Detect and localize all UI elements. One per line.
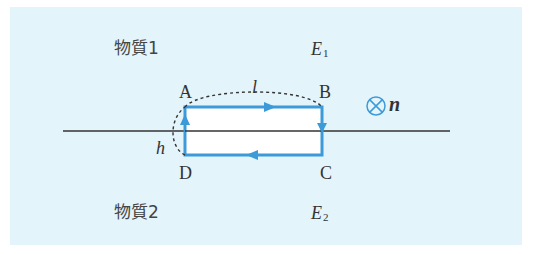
normal-n-label: n bbox=[389, 94, 400, 114]
vertex-d-label: D bbox=[179, 164, 192, 182]
vertex-a-label: A bbox=[179, 83, 192, 101]
into-page-icon bbox=[367, 97, 385, 115]
loop-diagram bbox=[0, 0, 533, 254]
field-e1-subscript: 1 bbox=[323, 47, 329, 59]
field-e1-label: E1 bbox=[311, 40, 329, 59]
height-h-label: h bbox=[156, 139, 165, 157]
field-e2-symbol: E bbox=[311, 203, 322, 223]
length-l-label: l bbox=[252, 78, 257, 96]
medium-2-label: 物質2 bbox=[114, 204, 159, 221]
vertex-c-label: C bbox=[320, 164, 332, 182]
medium-1-label: 物質1 bbox=[114, 40, 159, 57]
field-e2-label: E2 bbox=[311, 204, 329, 223]
vertex-b-label: B bbox=[319, 83, 331, 101]
field-e2-subscript: 2 bbox=[323, 211, 329, 223]
field-e1-symbol: E bbox=[311, 39, 322, 59]
